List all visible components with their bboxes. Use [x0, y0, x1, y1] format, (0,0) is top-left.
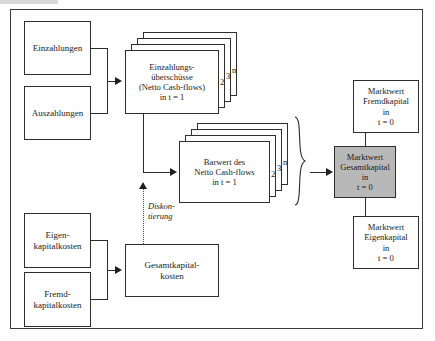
- connector-cashflow-to-barwert: [143, 172, 172, 173]
- connector-eigenkapitalkosten-out: [91, 240, 107, 241]
- node-einzahlungsueberschuesse-line4: in t = 1: [158, 92, 187, 102]
- node-marktwert-eigenkapital-line2: Eigenkapital: [362, 232, 409, 242]
- arrowhead-to-barwert: [170, 168, 177, 176]
- node-marktwert-eigenkapital-line3: in: [381, 243, 392, 253]
- node-einzahlungsueberschuesse-line3: (Netto Cash-flows): [137, 82, 207, 92]
- scan-artifact-strip: [0, 0, 58, 4]
- node-marktwert-gesamtkapital-line3: in: [360, 172, 371, 182]
- node-eigenkapitalkosten[interactable]: Eigen- kapitalkosten: [24, 213, 91, 268]
- node-gesamtkapitalkosten-line2: kosten: [158, 271, 186, 282]
- node-gesamtkapitalkosten-line1: Gesamtkapital-: [143, 260, 202, 271]
- node-marktwert-gesamtkapital[interactable]: Marktwert Gesamtkapital in t = 0: [334, 146, 396, 198]
- stack-label-barwert-n: n: [283, 158, 287, 167]
- stack-label-cashflow-n: n: [232, 66, 236, 75]
- node-marktwert-fremdkapital[interactable]: Marktwert Fremdkapital in t = 0: [353, 80, 419, 133]
- diagram-frame: Einzahlungen Auszahlungen Einzahlungs- ü…: [10, 9, 423, 329]
- stack-label-barwert-2: 2: [271, 170, 275, 179]
- node-barwert-line2: Netto Cash-flows: [192, 167, 256, 177]
- node-einzahlungsueberschuesse-line2: überschüsse: [149, 72, 195, 82]
- node-marktwert-eigenkapital-line1: Marktwert: [366, 222, 406, 232]
- arrowhead-to-gesamtkapitalkosten: [115, 266, 122, 274]
- node-marktwert-fremdkapital-line3: in: [381, 107, 392, 117]
- node-fremdkapitalkosten-line2: kapitalkosten: [32, 300, 84, 311]
- node-einzahlungen[interactable]: Einzahlungen: [24, 21, 91, 75]
- node-einzahlungen-label: Einzahlungen: [31, 43, 84, 54]
- arrowhead-to-gesamtkapital: [326, 168, 333, 176]
- node-einzahlungsueberschuesse-line1: Einzahlungs-: [147, 62, 196, 72]
- node-fremdkapitalkosten-line1: Fremd-: [42, 289, 73, 300]
- node-marktwert-fremdkapital-line1: Marktwert: [366, 86, 406, 96]
- node-marktwert-gesamtkapital-line2: Gesamtkapital: [338, 162, 392, 172]
- node-gesamtkapitalkosten[interactable]: Gesamtkapital- kosten: [125, 244, 219, 297]
- stack-label-cashflow-3: 3: [226, 72, 230, 81]
- arrowhead-diskontierung-up: [139, 182, 147, 189]
- node-marktwert-fremdkapital-line2: Fremdkapital: [361, 96, 411, 106]
- node-marktwert-fremdkapital-line4: t = 0: [376, 117, 396, 127]
- connector-fremdkapitalkosten-out: [91, 299, 107, 300]
- node-marktwert-eigenkapital[interactable]: Marktwert Eigenkapital in t = 0: [353, 216, 419, 269]
- node-barwert-line1: Barwert des: [202, 157, 247, 167]
- brace-barwert-stack: [292, 115, 312, 207]
- stack-label-cashflow-2: 2: [220, 78, 224, 87]
- connector-cashflow-down: [143, 114, 144, 172]
- label-diskontierung-line1: Diskon-: [148, 201, 175, 211]
- label-diskontierung: Diskon- tierung: [148, 202, 198, 222]
- connector-auszahlungen-out: [91, 113, 107, 114]
- node-barwert-line3: in t = 1: [210, 177, 239, 187]
- node-marktwert-gesamtkapital-line4: t = 0: [355, 182, 375, 192]
- node-eigenkapitalkosten-line2: kapitalkosten: [32, 241, 84, 252]
- connector-einzahlungen-out: [91, 48, 107, 49]
- diagram-screenshot: Einzahlungen Auszahlungen Einzahlungs- ü…: [0, 0, 435, 341]
- node-fremdkapitalkosten[interactable]: Fremd- kapitalkosten: [24, 272, 91, 327]
- node-marktwert-eigenkapital-line4: t = 0: [376, 253, 396, 263]
- node-barwert[interactable]: Barwert des Netto Cash-flows in t = 1: [179, 141, 270, 203]
- node-eigenkapitalkosten-line1: Eigen-: [44, 230, 72, 241]
- node-marktwert-gesamtkapital-line1: Marktwert: [345, 152, 385, 162]
- label-diskontierung-line2: tierung: [148, 211, 173, 221]
- node-auszahlungen-label: Auszahlungen: [30, 108, 86, 119]
- stack-label-barwert-3: 3: [277, 164, 281, 173]
- node-einzahlungsueberschuesse[interactable]: Einzahlungs- überschüsse (Netto Cash-flo…: [125, 50, 219, 114]
- node-auszahlungen[interactable]: Auszahlungen: [24, 86, 91, 140]
- arrowhead-to-cashflow: [115, 77, 122, 85]
